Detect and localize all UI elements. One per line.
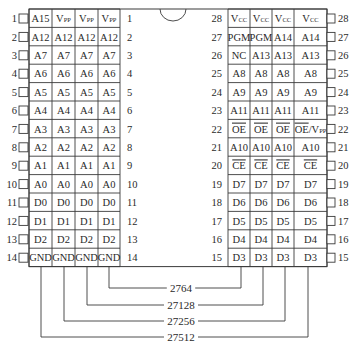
pin-row-2: A12A12A12A1222 <box>12 32 133 43</box>
pin-name-cell: D5 <box>233 216 246 227</box>
pin-lead <box>327 180 335 189</box>
pin-name-cell: D4 <box>233 234 247 245</box>
pin-lead <box>19 143 28 152</box>
pin-name-cell: A2 <box>34 142 47 153</box>
pin-name-cell: D5 <box>277 216 290 227</box>
variant-label-27128: 27128 <box>167 299 195 311</box>
outer-pin-number: 21 <box>338 142 349 153</box>
pin-name-cell: D7 <box>304 179 317 190</box>
pin-lead <box>19 198 28 207</box>
outer-pin-number: 2 <box>12 32 17 43</box>
pin-name-cell: A1 <box>80 160 93 171</box>
pin-name-cell: D0 <box>80 197 93 208</box>
outer-pin-number: 3 <box>12 50 17 61</box>
right-pin-table: VCCVCCVCCVCC2828PGMPGMA14A142727NCA13A13… <box>212 9 350 267</box>
inner-pin-number: 27 <box>212 32 223 43</box>
outer-pin-number: 18 <box>338 197 349 208</box>
pin-name-cell: A2 <box>103 142 116 153</box>
outer-pin-number: 27 <box>338 32 349 43</box>
pin-name-cell: A5 <box>80 87 93 98</box>
pin-name-cell: D1 <box>57 216 70 227</box>
pin-name-cell: GND <box>52 252 75 263</box>
pin-row-28: VCCVCCVCCVCC2828 <box>212 13 349 24</box>
pin-row-26: NCA13A13A132626 <box>212 50 349 61</box>
outer-pin-number: 16 <box>338 234 349 245</box>
pin-row-14: GNDGNDGNDGND1414 <box>7 252 139 263</box>
pin-name-cell: A8 <box>233 68 246 79</box>
pin-name-cell: D3 <box>304 252 317 263</box>
pin-name-cell: VPP <box>79 13 94 24</box>
pin-row-22: OEOEOEOE/VPP2222 <box>212 124 349 135</box>
pin-name-cell: A4 <box>34 105 48 116</box>
outer-pin-number: 7 <box>12 124 17 135</box>
pin-name-cell: A4 <box>80 105 94 116</box>
eprom-pinout-diagram: A15VPPVPPVPP11A12A12A12A1222A7A7A7A733A6… <box>0 0 359 354</box>
pin-name-cell: D6 <box>277 197 290 208</box>
pin-name-cell: D1 <box>34 216 47 227</box>
pin-name-cell: CE <box>276 160 289 171</box>
pin-row-13: D2D2D2D21313 <box>7 234 138 245</box>
outer-pin-number: 5 <box>12 87 17 98</box>
pin-name-cell: CE <box>304 160 317 171</box>
inner-pin-number: 6 <box>127 105 132 116</box>
inner-pin-number: 28 <box>212 13 223 24</box>
inner-pin-number: 23 <box>212 105 223 116</box>
pin-name-cell: VPP <box>102 13 117 24</box>
pin-lead <box>327 106 335 115</box>
pin-name-cell: D4 <box>277 234 291 245</box>
pin-name-cell: A11 <box>274 105 292 116</box>
pin-name-cell: D6 <box>304 197 317 208</box>
inner-pin-number: 9 <box>127 160 132 171</box>
inner-pin-number: 26 <box>212 50 223 61</box>
variant-label-2764: 2764 <box>170 282 193 294</box>
pin-name-cell: A4 <box>103 105 117 116</box>
inner-pin-number: 5 <box>127 87 132 98</box>
pin-name-cell: A1 <box>103 160 116 171</box>
inner-pin-number: 17 <box>212 216 223 227</box>
pin-name-cell: GND <box>29 252 52 263</box>
pin-row-6: A4A4A4A466 <box>12 105 133 116</box>
pin-name-cell: D6 <box>255 197 268 208</box>
inner-pin-number: 13 <box>127 234 138 245</box>
pin-row-1: A15VPPVPPVPP11 <box>12 13 133 24</box>
pin-row-12: D1D1D1D11212 <box>7 216 138 227</box>
pin-name-cell: VPP <box>56 13 71 24</box>
pin-row-10: A0A0A0A01010 <box>7 179 138 190</box>
pin-name-cell: D0 <box>103 197 116 208</box>
pin-name-cell: VCC <box>275 13 291 24</box>
pin-row-25: A8A8A8A82525 <box>212 68 349 79</box>
pin-name-cell: A9 <box>277 87 290 98</box>
pin-name-cell: A8 <box>277 68 290 79</box>
outer-pin-number: 20 <box>338 160 349 171</box>
pin-name-cell: A11 <box>230 105 248 116</box>
pin-name-cell: PGM <box>250 32 273 43</box>
pin-name-cell: A7 <box>103 50 116 61</box>
pin-lead <box>19 235 28 244</box>
pin-name-cell: PGM <box>228 32 251 43</box>
pin-name-cell: D7 <box>255 179 268 190</box>
outer-pin-number: 6 <box>12 105 17 116</box>
pin-name-cell: A9 <box>233 87 246 98</box>
outer-pin-number: 8 <box>12 142 17 153</box>
pin-name-cell: A5 <box>103 87 116 98</box>
inner-pin-number: 3 <box>127 50 132 61</box>
pin-name-cell: A6 <box>57 68 70 79</box>
pin-name-cell: NC <box>232 50 247 61</box>
inner-pin-number: 19 <box>212 179 223 190</box>
pin-lead <box>327 32 335 41</box>
pin-name-cell: A2 <box>80 142 93 153</box>
inner-pin-number: 20 <box>212 160 223 171</box>
pin-name-cell: D1 <box>80 216 93 227</box>
pin-name-cell: A12 <box>31 32 49 43</box>
outer-pin-number: 12 <box>7 216 18 227</box>
outer-pin-number: 13 <box>7 234 18 245</box>
pin-name-cell: D3 <box>255 252 268 263</box>
pin-name-cell: OE <box>232 124 246 135</box>
pin-name-cell: A6 <box>80 68 93 79</box>
pin-lead <box>19 161 28 170</box>
pin-name-cell: A7 <box>34 50 47 61</box>
pin-name-cell: GND <box>98 252 121 263</box>
pin-name-cell: A3 <box>80 124 93 135</box>
pin-row-4: A6A6A6A644 <box>12 68 133 79</box>
pin-name-cell: A0 <box>57 179 70 190</box>
